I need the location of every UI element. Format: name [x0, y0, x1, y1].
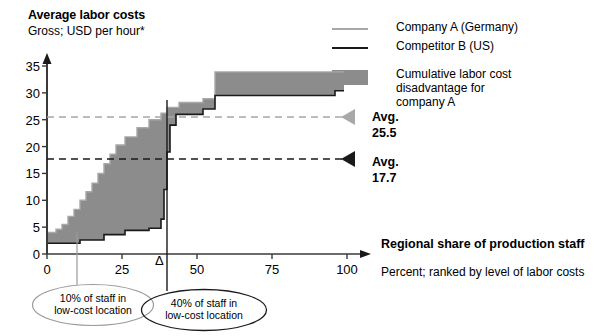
ytick-label-30: 30 [14, 86, 40, 101]
avg-triangle-company-a [341, 109, 355, 125]
callout-10-percent-line2: low-cost location [31, 304, 155, 316]
callout-10-percent-line1: 10% of staff in [31, 292, 155, 304]
callout-10-percent: 10% of staff in low-cost location [31, 283, 155, 327]
ytick-label-5: 5 [14, 220, 40, 235]
ytick-label-20: 20 [14, 140, 40, 155]
callout-40-percent-line2: low-cost location [140, 309, 268, 321]
avg-company-a-annotation: Avg. 25.5 [372, 111, 399, 139]
ytick-label-10: 10 [14, 193, 40, 208]
avg-triangle-competitor-b [341, 151, 355, 167]
xtick-label-75: 75 [257, 262, 287, 277]
ytick-label-25: 25 [14, 113, 40, 128]
avg-company-a-label: Avg. [372, 111, 399, 124]
avg-competitor-b-annotation: Avg. 17.7 [372, 156, 399, 184]
cumulative-disadvantage-band [47, 72, 344, 243]
chart-container: Average labor costs Gross; USD per hour*… [0, 0, 604, 336]
callout-40-percent-line1: 40% of staff in [140, 297, 268, 309]
xtick-label-100: 100 [332, 262, 362, 277]
avg-competitor-b-label: Avg. [372, 156, 399, 169]
ytick-label-0: 0 [14, 247, 40, 262]
ytick-label-15: 15 [14, 166, 40, 181]
callout-40-percent-text: 40% of staff in low-cost location [140, 297, 268, 321]
avg-competitor-b-value: 17.7 [372, 172, 399, 185]
y-axis-arrowhead [43, 53, 52, 64]
delta-marker-label: Δ [155, 253, 164, 268]
callout-10-percent-text: 10% of staff in low-cost location [31, 292, 155, 316]
avg-company-a-value: 25.5 [372, 127, 399, 140]
x-axis-arrowhead [360, 250, 371, 258]
xaxis-subtitle: Percent; ranked by level of labor costs [381, 266, 584, 280]
xaxis-title: Regional share of production staff [381, 238, 585, 252]
xtick-label-25: 25 [107, 262, 137, 277]
xtick-label-50: 50 [182, 262, 212, 277]
callout-40-percent: 40% of staff in low-cost location [140, 288, 268, 332]
xtick-label-0: 0 [32, 262, 62, 277]
ytick-label-35: 35 [14, 59, 40, 74]
